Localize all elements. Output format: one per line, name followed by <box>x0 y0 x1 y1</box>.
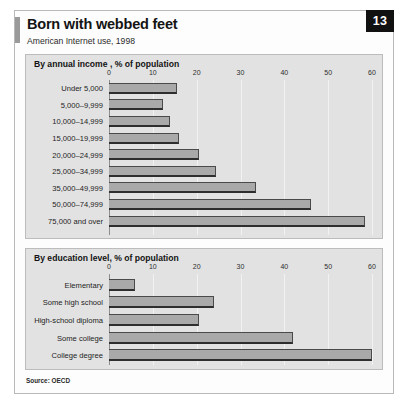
bar-row: High-school diploma <box>109 311 372 329</box>
bar <box>109 199 311 210</box>
bar-row: 75,000 and over <box>109 213 372 230</box>
chart-title-income: By annual income , % of population <box>34 59 179 69</box>
x-axis-tick-label: 30 <box>237 263 245 270</box>
category-label: Some high school <box>43 298 103 307</box>
chart-title-education: By education level, % of population <box>34 253 179 263</box>
category-label: High-school diploma <box>34 315 103 324</box>
category-label: 50,000–74,999 <box>52 200 103 209</box>
bar <box>109 279 135 291</box>
bar <box>109 332 293 344</box>
category-label: 15,000–19,999 <box>52 134 103 143</box>
category-label: 5,000–9,999 <box>61 100 103 109</box>
bar-row: Elementary <box>109 276 372 294</box>
category-label: 20,000–24,999 <box>52 150 103 159</box>
bar <box>109 99 163 110</box>
bar <box>109 133 179 144</box>
x-axis: 0102030405060 <box>109 263 372 274</box>
category-label: 35,000–49,999 <box>52 183 103 192</box>
x-axis-tick-label: 20 <box>193 263 201 270</box>
bar-row: Some high school <box>109 294 372 312</box>
x-axis-tick-label: 0 <box>107 263 111 270</box>
source-note: Source: OECD <box>26 377 70 384</box>
figure-card: Born with webbed feet American Internet … <box>14 10 394 394</box>
bar <box>109 314 199 326</box>
x-axis-tick-label: 40 <box>280 69 288 76</box>
bar <box>109 182 256 193</box>
bar <box>109 116 170 127</box>
bar <box>109 296 214 308</box>
bar-row: 5,000–9,999 <box>109 97 372 114</box>
figure-header: Born with webbed feet American Internet … <box>27 16 383 47</box>
bar-row: Under 5,000 <box>109 80 372 97</box>
x-axis-tick-label: 60 <box>368 263 376 270</box>
chart-panel-education: By education level, % of population 0102… <box>25 248 383 370</box>
x-axis-tick-label: 50 <box>324 263 332 270</box>
category-label: Elementary <box>65 280 103 289</box>
category-label: Under 5,000 <box>61 84 103 93</box>
page-number-badge: 13 <box>366 10 394 32</box>
category-label: Some college <box>57 333 103 342</box>
page-subtitle: American Internet use, 1998 <box>27 35 383 47</box>
bar-row: 25,000–34,999 <box>109 163 372 180</box>
bar <box>109 166 216 177</box>
bar-rows: Under 5,0005,000–9,99910,000–14,99915,00… <box>109 80 372 235</box>
x-axis-tick-label: 60 <box>368 69 376 76</box>
bar-row: Some college <box>109 329 372 347</box>
x-axis-tick-label: 50 <box>324 69 332 76</box>
x-axis-tick-label: 30 <box>237 69 245 76</box>
bar-row: 20,000–24,999 <box>109 146 372 163</box>
bar-row: 35,000–49,999 <box>109 180 372 197</box>
bar <box>109 216 365 227</box>
bar-row: College degree <box>109 346 372 364</box>
category-label: 10,000–14,999 <box>52 117 103 126</box>
chart-plot-income: 0102030405060Under 5,0005,000–9,99910,00… <box>109 69 372 235</box>
chart-panel-income: By annual income , % of population 01020… <box>25 54 383 239</box>
gridline <box>372 274 373 365</box>
x-axis-tick-label: 40 <box>280 263 288 270</box>
x-axis-tick-label: 10 <box>149 69 157 76</box>
page-title: Born with webbed feet <box>27 16 383 33</box>
gridline <box>372 80 373 235</box>
bar-rows: ElementarySome high schoolHigh-school di… <box>109 274 372 365</box>
bar <box>109 149 199 160</box>
bar <box>109 83 177 94</box>
title-accent-bar <box>15 17 20 43</box>
x-axis-tick-label: 0 <box>107 69 111 76</box>
bar-row: 10,000–14,999 <box>109 113 372 130</box>
category-label: 25,000–34,999 <box>52 167 103 176</box>
category-label: 75,000 and over <box>48 217 103 226</box>
category-label: College degree <box>51 351 103 360</box>
bar <box>109 349 372 361</box>
bar-row: 50,000–74,999 <box>109 196 372 213</box>
bar-row: 15,000–19,999 <box>109 130 372 147</box>
chart-plot-education: 0102030405060ElementarySome high schoolH… <box>109 263 372 365</box>
x-axis-tick-label: 20 <box>193 69 201 76</box>
x-axis: 0102030405060 <box>109 69 372 80</box>
x-axis-tick-label: 10 <box>149 263 157 270</box>
